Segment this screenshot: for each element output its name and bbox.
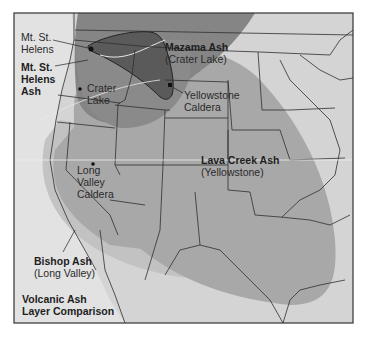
mt-st-helens-marker <box>89 47 94 52</box>
label-line: Yellowstone <box>184 89 240 101</box>
layer-source: (Yellowstone) <box>201 166 279 178</box>
mt-st-helens-ash-label: Mt. St. Helens Ash <box>21 61 55 97</box>
label-line: Mt. St. <box>21 61 55 73</box>
label-line: Caldera <box>77 188 114 200</box>
yellowstone-marker <box>168 83 172 87</box>
layer-name: Bishop Ash <box>34 255 95 267</box>
label-line: Helens <box>21 73 55 85</box>
label-line: Ash <box>21 85 55 97</box>
mazama-ash-label: Mazama Ash (Crater Lake) <box>165 41 228 65</box>
title-line: Volcanic Ash <box>22 293 114 305</box>
bishop-ash-label: Bishop Ash (Long Valley) <box>34 255 95 279</box>
label-line: Helens <box>21 43 54 55</box>
layer-name: Lava Creek Ash <box>201 154 279 166</box>
label-line: Valley <box>77 176 114 188</box>
label-line: Long <box>77 164 114 176</box>
map-title: Volcanic Ash Layer Comparison <box>22 293 114 317</box>
lava-creek-ash-label: Lava Creek Ash (Yellowstone) <box>201 154 279 178</box>
label-line: Lake <box>87 94 116 106</box>
title-line: Layer Comparison <box>22 305 114 317</box>
label-line: Caldera <box>184 101 240 113</box>
layer-source: (Crater Lake) <box>165 53 228 65</box>
label-line: Mt. St. <box>21 31 54 43</box>
label-line: Crater <box>87 82 116 94</box>
crater-lake-label: Crater Lake <box>87 82 116 106</box>
layer-source: (Long Valley) <box>34 267 95 279</box>
yellowstone-label: Yellowstone Caldera <box>184 89 240 113</box>
layer-name: Mazama Ash <box>165 41 228 53</box>
long-valley-label: Long Valley Caldera <box>77 164 114 200</box>
mt-st-helens-label: Mt. St. Helens <box>21 31 54 55</box>
crater-lake-marker <box>78 87 82 91</box>
